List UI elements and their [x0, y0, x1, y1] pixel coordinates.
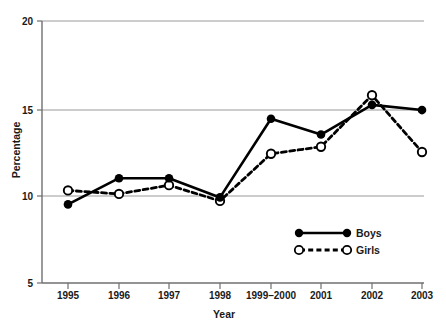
data-point-girls-2002: [368, 91, 376, 99]
data-point-boys-2003: [418, 106, 427, 115]
y-tick-label-20: 20: [22, 16, 34, 27]
legend-marker-girls-right: [343, 246, 351, 254]
chart-legend: Boys Girls: [295, 227, 382, 256]
x-tick-label-1995: 1995: [57, 290, 80, 301]
data-point-boys-2001: [317, 130, 326, 139]
data-point-boys-1999–2000: [267, 115, 276, 124]
y-tick-label-15: 15: [22, 105, 34, 116]
x-tick-label-1996: 1996: [108, 290, 131, 301]
y-tick-label-10: 10: [22, 191, 34, 202]
x-tick-label-1997: 1997: [158, 290, 181, 301]
legend-marker-boys-left: [295, 229, 303, 237]
data-point-boys-1998: [216, 193, 225, 202]
x-tick-label-1999-2000: 1999–2000: [246, 290, 296, 301]
data-point-boys-1996: [115, 174, 124, 183]
x-tick-marks: [68, 283, 422, 289]
series-line-girls: [68, 95, 422, 201]
x-tick-label-2001: 2001: [310, 290, 333, 301]
y-tick-labels: 20 15 10 5: [22, 16, 34, 289]
legend-marker-boys-right: [343, 229, 351, 237]
data-point-girls-1995: [64, 186, 72, 194]
data-point-girls-1999–2000: [267, 150, 275, 158]
x-tick-label-2002: 2002: [361, 290, 384, 301]
data-point-boys-1997: [165, 174, 174, 183]
legend-marker-girls-left: [295, 246, 303, 254]
data-point-girls-2003: [418, 148, 426, 156]
legend-label-boys: Boys: [356, 227, 382, 239]
y-axis-title: Percentage: [10, 122, 22, 179]
chart-canvas: 20 15 10 5 1995 1996 1997 1998 1999–2000…: [0, 0, 446, 329]
y-tick-marks: [37, 21, 42, 283]
data-point-girls-1996: [115, 190, 123, 198]
legend-label-girls: Girls: [356, 244, 380, 256]
data-point-boys-1995: [64, 200, 73, 209]
x-tick-label-1998: 1998: [209, 290, 232, 301]
x-tick-label-2003: 2003: [411, 290, 434, 301]
x-axis-title: Year: [213, 308, 235, 320]
data-point-girls-2001: [317, 143, 325, 151]
line-chart-figure: 20 15 10 5 1995 1996 1997 1998 1999–2000…: [0, 0, 446, 329]
girls-polyline: [68, 95, 422, 201]
y-tick-label-5: 5: [27, 278, 33, 289]
x-tick-labels: 1995 1996 1997 1998 1999–2000 2001 2002 …: [57, 290, 434, 301]
data-point-boys-2002: [368, 101, 377, 110]
